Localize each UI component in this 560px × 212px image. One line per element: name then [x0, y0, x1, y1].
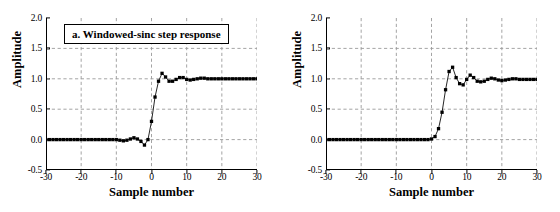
chart-panel-a: 2.0 1.5 1.0 0.5 0.0 -0.5 Amplitude a. Wi…: [0, 0, 280, 212]
y-tick-label: 2.0: [31, 13, 42, 23]
y-tick-label: 0.0: [311, 135, 322, 145]
plot-area-b: [326, 18, 537, 170]
y-axis-title: Amplitude: [290, 22, 305, 98]
x-tick-mark: [81, 170, 82, 174]
y-axis-title: Amplitude: [10, 22, 25, 98]
y-tick-label: 1.0: [311, 74, 322, 84]
y-tick-label: 1.5: [311, 43, 322, 53]
x-axis-ticks-a: -30 -20 -10 0 10 20 30: [0, 172, 280, 184]
x-tick-mark: [45, 170, 46, 174]
y-tick-label: 0.5: [311, 104, 322, 114]
x-axis-title: Sample number: [46, 185, 257, 200]
y-tick-label: 0.5: [31, 104, 42, 114]
x-axis-title: Sample number: [326, 185, 537, 200]
y-tick-label: 1.5: [31, 43, 42, 53]
x-tick-mark: [431, 170, 432, 174]
x-tick-mark: [221, 170, 222, 174]
x-tick-mark: [186, 170, 187, 174]
chart-panel-b: 2.0 1.5 1.0 0.5 0.0 -0.5 Amplitude b. Ch…: [280, 0, 560, 212]
x-axis-ticks-b: -30 -20 -10 0 10 20 30: [280, 172, 560, 184]
y-tick-label: 2.0: [311, 13, 322, 23]
x-tick-mark: [466, 170, 467, 174]
x-tick-mark: [325, 170, 326, 174]
x-tick-mark: [536, 170, 537, 174]
plot-frame: [326, 18, 537, 170]
x-tick-mark: [256, 170, 257, 174]
y-tick-label: 1.0: [31, 74, 42, 84]
x-tick-mark: [501, 170, 502, 174]
x-tick-mark: [151, 170, 152, 174]
x-tick-mark: [361, 170, 362, 174]
panel-title-a: a. Windowed-sinc step response: [64, 24, 229, 44]
figure-root: 2.0 1.5 1.0 0.5 0.0 -0.5 Amplitude a. Wi…: [0, 0, 560, 212]
x-tick-mark: [116, 170, 117, 174]
y-tick-label: 0.0: [31, 135, 42, 145]
x-tick-mark: [396, 170, 397, 174]
